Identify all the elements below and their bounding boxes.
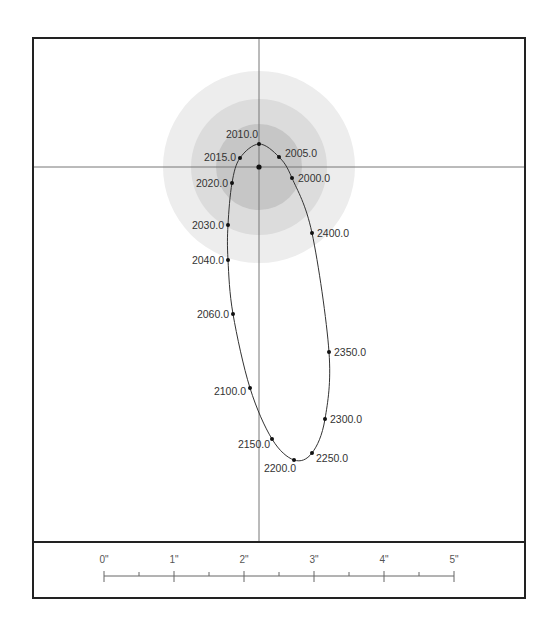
orbit-point [327,350,331,354]
orbit-point [226,258,230,262]
orbit-point-label: 2060.0 [197,308,229,320]
orbit-point [230,181,234,185]
orbit-point [257,142,261,146]
orbit-point [310,231,314,235]
orbit-point-label: 2150.0 [238,438,270,450]
scale-label: 5" [449,554,459,565]
orbit-point-label: 2015.0 [204,151,236,163]
scale-bar: 0"1"2"3"4"5" [99,554,459,582]
orbit-point-label: 2005.0 [285,147,317,159]
orbit-point [277,155,281,159]
orbit-point [248,386,252,390]
scale-label: 4" [379,554,389,565]
orbit-point [231,312,235,316]
center-point [256,164,261,169]
orbit-point [226,223,230,227]
orbit-point-label: 2030.0 [192,219,224,231]
orbit-point-label: 2040.0 [192,254,224,266]
orbit-point-label: 2010.0 [226,128,258,140]
orbit-point-label: 2200.0 [264,462,296,474]
orbit-point [310,451,314,455]
orbit-point [238,156,242,160]
scale-label: 1" [169,554,179,565]
scale-label: 2" [239,554,249,565]
orbit-point-label: 2250.0 [316,452,348,464]
orbit-point-label: 2350.0 [334,346,366,358]
orbit-point-label: 2020.0 [196,177,228,189]
orbit-point-label: 2000.0 [298,172,330,184]
orbit-point [290,176,294,180]
orbit-point-label: 2400.0 [317,227,349,239]
orbit-point-label: 2300.0 [330,413,362,425]
orbit-point-label: 2100.0 [214,385,246,397]
scale-label: 0" [99,554,109,565]
orbit-point [323,417,327,421]
orbit-diagram: 2000.02005.02010.02015.02020.02030.02040… [0,0,548,617]
scale-label: 3" [309,554,319,565]
orbit-point [270,437,274,441]
